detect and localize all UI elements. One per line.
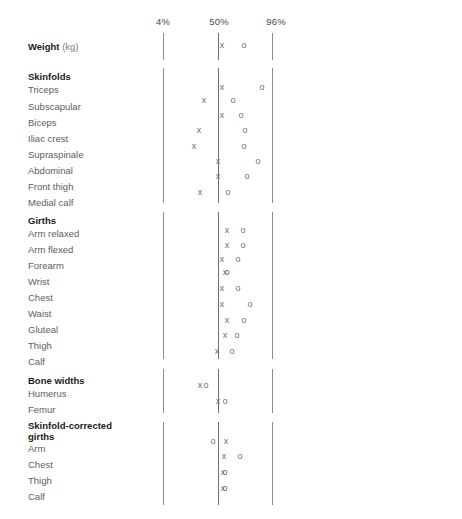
group-header-bone-widths: Bone widths [28,375,84,386]
marker-o-subscapular: o [230,96,235,105]
marker-x-sc-chest: x [222,452,227,461]
row-label-gluteal: Gluteal [28,324,58,335]
row-label-medial-calf: Medial calf [28,197,73,208]
marker-x-femur: x [216,397,221,406]
marker-x-triceps: x [220,83,225,92]
row-label-sc-arm: Arm [28,443,45,454]
row-label-triceps: Triceps [28,84,59,95]
marker-x-medial-calf: x [198,188,203,197]
marker-x-waist: x [220,300,225,309]
marker-o-femur: o [222,397,227,406]
weight-text: Weight [28,41,60,52]
row-label-supraspinale: Supraspinale [28,149,83,160]
row-label-arm-flexed: Arm flexed [28,244,73,255]
axis-tick-96: 96% [266,16,286,27]
marker-o-front-thigh: o [244,172,249,181]
row-label-subscapular: Subscapular [28,101,81,112]
marker-o-calf-girth: o [229,347,234,356]
group-header-skinfold-corrected-girths: Skinfold-corrected girths [28,421,128,442]
marker-o-wrist: o [224,268,229,277]
row-label-waist: Waist [28,308,51,319]
marker-x-arm-relaxed: x [225,226,230,235]
marker-o-humerus: o [203,381,208,390]
row-label-abdominal: Abdominal [28,165,73,176]
marker-x-calf-girth: x [215,347,220,356]
marker-o-supraspinale: o [241,142,246,151]
row-label-weight: Weight (kg) [28,41,79,52]
axis-tick-4: 4% [156,16,170,27]
marker-x-humerus: x [198,381,203,390]
row-label-sc-chest: Chest [28,459,53,470]
row-label-femur: Femur [28,404,55,415]
row-label-front-thigh: Front thigh [28,181,73,192]
marker-o-biceps: o [238,111,243,120]
marker-o-gluteal: o [241,316,246,325]
marker-x-subscapular: x [202,96,207,105]
marker-x-iliac-crest: x [197,126,202,135]
marker-o-sc-chest: o [237,452,242,461]
row-label-calf-girth: Calf [28,356,45,367]
marker-o-waist: o [247,300,252,309]
anthropometry-percentile-chart: 4% 50% 96% Weight (kg) x o Skinfolds Tri… [0,0,462,519]
marker-x-arm-flexed: x [225,241,230,250]
marker-o-thigh: o [234,331,239,340]
marker-o-abdominal: o [255,157,260,166]
row-label-wrist: Wrist [28,276,49,287]
marker-o-medial-calf: o [225,188,230,197]
marker-o-sc-calf: o [222,484,227,493]
marker-x-supraspinale: x [192,142,197,151]
row-label-thigh: Thigh [28,340,52,351]
row-label-sc-thigh: Thigh [28,475,52,486]
marker-o-arm-flexed: o [240,241,245,250]
marker-o-triceps: o [259,83,264,92]
marker-x-gluteal: x [225,316,230,325]
group-header-skinfolds: Skinfolds [28,71,71,82]
marker-o-chest: o [235,284,240,293]
marker-x-forearm: x [220,255,225,264]
row-label-humerus: Humerus [28,388,67,399]
row-label-biceps: Biceps [28,117,57,128]
row-label-iliac-crest: Iliac crest [28,133,68,144]
weight-unit: (kg) [62,41,78,52]
marker-x-front-thigh: x [216,172,221,181]
marker-x-thigh: x [223,331,228,340]
marker-o-arm-relaxed: o [240,226,245,235]
marker-o-sc-thigh: o [222,468,227,477]
marker-x-biceps: x [220,111,225,120]
marker-x-sc-arm: x [224,437,229,446]
row-label-arm-relaxed: Arm relaxed [28,228,79,239]
marker-o-forearm: o [235,255,240,264]
marker-x-weight: x [220,41,225,50]
row-label-chest: Chest [28,292,53,303]
marker-o-iliac-crest: o [242,126,247,135]
row-label-forearm: Forearm [28,260,64,271]
marker-o-weight: o [241,41,246,50]
marker-x-abdominal: x [216,157,221,166]
marker-x-chest: x [220,284,225,293]
marker-o-sc-arm: o [210,437,215,446]
row-label-sc-calf: Calf [28,491,45,502]
group-header-girths: Girths [28,215,56,226]
axis-tick-50: 50% [209,16,229,27]
